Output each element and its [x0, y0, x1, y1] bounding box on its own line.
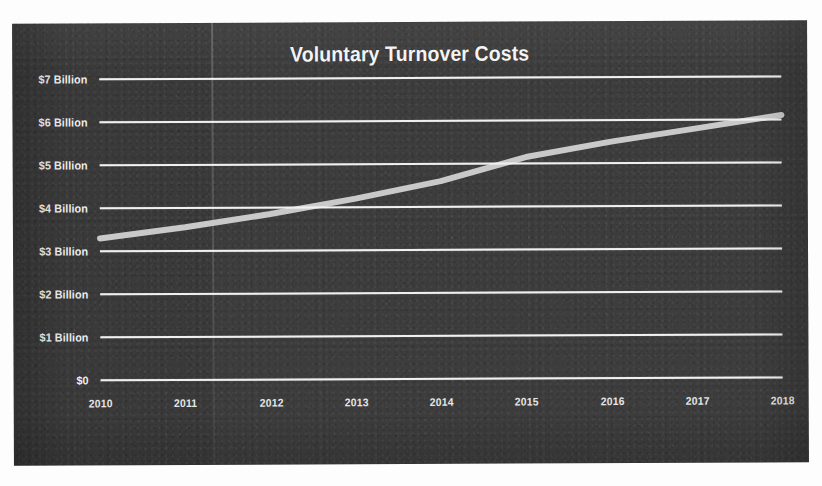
x-axis-tick-label: 2018 — [771, 394, 795, 406]
y-axis-tick-label: $6 Billion — [38, 116, 87, 128]
chart-title: Voluntary Turnover Costs — [40, 40, 779, 67]
x-axis-tick-label: 2012 — [259, 397, 283, 409]
x-axis-tick-label: 2017 — [686, 395, 710, 407]
y-axis-tick-label: $4 Billion — [39, 202, 88, 214]
series-polyline — [99, 115, 782, 238]
x-axis-tick-label: 2013 — [345, 396, 369, 408]
y-axis-tick-label: $3 Billion — [39, 245, 88, 257]
y-axis-tick-label: $7 Billion — [38, 73, 87, 85]
y-axis-tick-label: $0 — [76, 374, 88, 386]
x-axis-tick-label: 2016 — [600, 395, 624, 407]
y-axis-tick-label: $2 Billion — [39, 288, 88, 300]
chart-panel: Voluntary Turnover Costs $0$1 Billion$2 … — [12, 20, 809, 465]
y-axis-tick-label: $5 Billion — [39, 159, 88, 171]
scanned-page: Voluntary Turnover Costs $0$1 Billion$2 … — [0, 0, 822, 486]
x-axis-tick-label: 2010 — [89, 397, 113, 409]
x-axis-tick-label: 2015 — [515, 395, 539, 407]
y-axis-tick-label: $1 Billion — [39, 331, 88, 343]
x-axis-tick-label: 2011 — [174, 397, 197, 409]
x-axis-tick-label: 2014 — [430, 396, 454, 408]
plot-area: $0$1 Billion$2 Billion$3 Billion$4 Billi… — [99, 76, 782, 380]
